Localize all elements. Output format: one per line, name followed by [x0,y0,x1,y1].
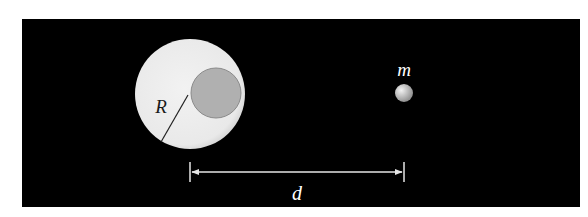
physics-diagram: R m d [0,0,588,217]
space-background-panel [22,19,580,207]
spherical-cavity [191,68,241,118]
distance-label: d [292,182,303,204]
large-sphere: R [135,39,245,149]
small-mass-sphere [395,84,413,102]
radius-label: R [154,96,167,117]
mass-label: m [397,59,411,80]
